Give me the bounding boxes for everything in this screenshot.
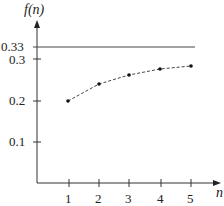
y-tick-label: 0.2 (9, 93, 25, 108)
data-point (66, 99, 70, 103)
data-points (66, 64, 193, 103)
x-tick-label: 1 (65, 191, 72, 206)
x-tick-label: 2 (95, 191, 102, 206)
data-point (97, 82, 101, 86)
x-tick-label: 5 (187, 191, 194, 206)
chart: f(n) n 0.33 0.3 0.2 0.1 1 2 3 4 5 (0, 0, 224, 206)
y-tick-label: 0.1 (9, 134, 25, 149)
x-axis-label: n (216, 185, 223, 200)
data-point (189, 64, 193, 68)
y-tick-label: 0.3 (9, 52, 25, 67)
x-tick-label: 3 (125, 191, 132, 206)
series-line (68, 66, 191, 101)
y-axis-label: f(n) (24, 2, 45, 18)
data-point (127, 73, 131, 77)
data-point (158, 67, 162, 71)
x-tick-label: 4 (157, 191, 164, 206)
y-axis-arrow-icon (34, 20, 40, 28)
